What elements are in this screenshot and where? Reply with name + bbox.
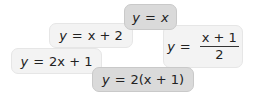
equals-sign: =: [145, 10, 156, 25]
equation-card-y-equals-2-times-x-plus-1[interactable]: y = 2(x + 1): [92, 67, 194, 92]
equation-card-y-equals-x[interactable]: y = x: [124, 4, 177, 30]
equals-sign: =: [180, 39, 191, 54]
equation-card-y-equals-x-plus-1-over-2[interactable]: y = x + 1 2: [163, 25, 243, 68]
lhs-variable: y: [167, 39, 175, 54]
equals-sign: =: [72, 28, 83, 43]
rhs-expression: 2(x + 1): [131, 72, 185, 87]
equation-card-y-equals-x-plus-2[interactable]: y = x + 2: [49, 23, 133, 48]
rhs-expression: x + 2: [88, 28, 123, 43]
lhs-variable: y: [20, 54, 28, 69]
rhs-expression: 2x + 1: [49, 54, 92, 69]
equals-sign: =: [115, 72, 126, 87]
lhs-variable: y: [132, 10, 140, 25]
fraction: x + 1 2: [200, 31, 239, 62]
lhs-variable: y: [102, 72, 110, 87]
fraction-numerator: x + 1: [200, 31, 239, 47]
equals-sign: =: [33, 54, 44, 69]
fraction-denominator: 2: [215, 47, 223, 62]
rhs-expression: x: [161, 10, 169, 25]
equation-card-y-equals-2x-plus-1[interactable]: y = 2x + 1: [11, 48, 102, 74]
lhs-variable: y: [59, 28, 67, 43]
